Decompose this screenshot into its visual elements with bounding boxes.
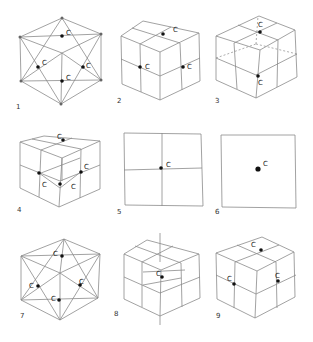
lattice-edge — [124, 133, 125, 205]
lattice-edge — [216, 275, 256, 294]
lattice-edge — [98, 254, 100, 298]
lattice-edge — [135, 246, 181, 263]
center-label: C — [145, 64, 150, 71]
center-label: C — [84, 164, 89, 171]
center-label: C — [51, 296, 56, 303]
crystal-lattice-figure: 1 2 3 4 5 6 7 8 9 CCCCCCCCCCCCCCCCCCCCCC… — [0, 0, 313, 342]
lattice-edge — [216, 16, 259, 36]
center-atom — [57, 298, 61, 302]
center-atom — [159, 166, 163, 170]
lattice-edge — [20, 37, 21, 81]
panel-1-number: 1 — [16, 104, 20, 111]
lattice-edge — [199, 254, 200, 298]
center-label: C — [57, 134, 62, 141]
lattice-edge — [143, 278, 181, 285]
center-atom — [258, 30, 262, 34]
center-atom — [161, 32, 165, 36]
lattice-edge — [61, 34, 101, 104]
corner-atom — [61, 17, 64, 20]
lattice-edge — [21, 53, 62, 81]
center-atom — [58, 182, 62, 186]
center-label: C — [258, 22, 263, 29]
lattice-edge — [161, 254, 199, 270]
center-label: C — [251, 242, 256, 249]
center-atom — [36, 284, 40, 288]
corner-atom — [19, 36, 22, 39]
panel-8-number: 8 — [114, 311, 118, 318]
lattice-edge — [61, 80, 101, 104]
lattice-edge — [256, 54, 297, 75]
center-label: C — [258, 80, 263, 87]
lattice-edge — [199, 33, 200, 81]
lattice-edge — [124, 133, 201, 134]
panel-9-number: 9 — [216, 313, 220, 320]
lattice-drawings — [0, 0, 313, 342]
lattice-edge — [121, 36, 122, 84]
lattice-edge — [222, 207, 296, 208]
panel-6-drawing — [221, 135, 296, 208]
panel-2-drawing — [121, 21, 200, 100]
center-label: C — [29, 283, 34, 290]
panel-4-number: 4 — [17, 207, 21, 214]
panel-7-drawing — [21, 239, 100, 320]
hidden-edge — [216, 44, 256, 58]
panel-3-drawing — [216, 16, 297, 98]
center-label: C — [42, 182, 47, 189]
lattice-edge — [61, 53, 62, 104]
center-label: C — [227, 276, 232, 283]
lattice-edge — [124, 168, 202, 170]
lattice-edge — [160, 277, 200, 293]
lattice-edge — [20, 37, 61, 104]
lattice-edge — [221, 135, 222, 207]
panel-6-number: 6 — [215, 209, 219, 216]
center-label: C — [86, 63, 91, 70]
panel-8-drawing — [124, 233, 200, 325]
lattice-edge — [201, 134, 203, 206]
panel-1-drawing — [19, 17, 103, 106]
lattice-edge — [142, 246, 173, 262]
center-label: C — [66, 75, 71, 82]
corner-atom — [100, 33, 103, 36]
lattice-edge — [295, 135, 296, 208]
lattice-edge — [62, 18, 101, 80]
lattice-edge — [44, 136, 100, 141]
center-label: C — [42, 60, 47, 67]
center-atom — [138, 65, 142, 69]
lattice-edge — [147, 240, 199, 254]
lattice-edge — [235, 245, 279, 262]
panel-3-number: 3 — [215, 98, 219, 105]
lattice-edge — [255, 297, 295, 318]
center-label: C — [79, 279, 84, 286]
center-atom — [256, 74, 260, 78]
lattice-edge — [125, 205, 203, 206]
panel-2-number: 2 — [117, 98, 121, 105]
lattice-edge — [255, 271, 257, 318]
center-label: C — [71, 184, 76, 191]
center-atom — [81, 65, 85, 69]
center-atom — [60, 34, 64, 38]
lattice-edge — [216, 253, 217, 299]
panel-5-drawing — [124, 133, 203, 206]
center-atom — [259, 248, 263, 252]
center-label: C — [187, 64, 192, 71]
lattice-edge — [124, 240, 147, 254]
lattice-edge — [160, 298, 200, 316]
panel-4-drawing — [20, 136, 100, 207]
lattice-edge — [276, 262, 277, 308]
center-label: C — [173, 27, 178, 34]
center-atom — [60, 254, 64, 258]
center-atom — [79, 170, 83, 174]
center-atom — [36, 65, 40, 69]
center-atom — [60, 79, 64, 83]
center-atom — [181, 65, 185, 69]
lattice-edge — [181, 263, 182, 307]
lattice-edge — [140, 27, 171, 44]
lattice-edge — [59, 189, 100, 207]
center-label: C — [156, 271, 161, 278]
lattice-edge — [160, 81, 200, 100]
panel-7-number: 7 — [20, 313, 24, 320]
lattice-edge — [60, 298, 98, 320]
center-label: C — [166, 162, 171, 169]
center-label: C — [263, 161, 268, 168]
lattice-edge — [217, 299, 255, 318]
